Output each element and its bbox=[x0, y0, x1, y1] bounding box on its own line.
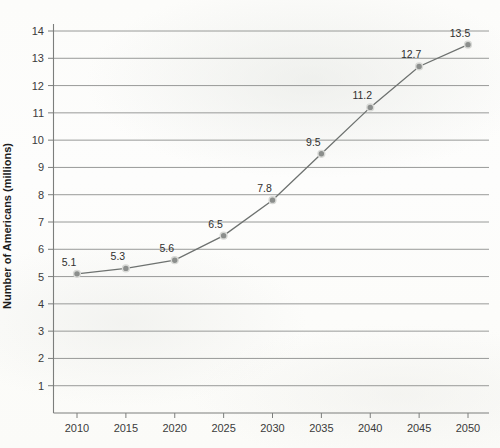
y-tick-label: 14 bbox=[32, 25, 44, 37]
line-chart: 1234567891011121314 20102015202020252030… bbox=[0, 0, 500, 448]
data-point-marker bbox=[74, 270, 81, 277]
y-tick-label: 9 bbox=[38, 161, 44, 173]
data-series-line bbox=[77, 45, 468, 274]
x-tick-label: 2030 bbox=[260, 422, 284, 434]
x-axis-tick-group: 201020152020202520302035204020452050 bbox=[65, 413, 480, 434]
y-tick-label: 2 bbox=[38, 352, 44, 364]
data-point-label: 5.1 bbox=[62, 256, 77, 268]
y-tick-label: 1 bbox=[38, 380, 44, 392]
y-tick-label: 13 bbox=[32, 52, 44, 64]
y-tick-label: 7 bbox=[38, 216, 44, 228]
y-tick-label: 10 bbox=[32, 134, 44, 146]
data-point-marker bbox=[367, 104, 374, 111]
data-point-label: 11.2 bbox=[352, 89, 372, 101]
data-point-label: 7.8 bbox=[257, 182, 272, 194]
data-point-label: 9.5 bbox=[306, 136, 321, 148]
y-tick-label: 12 bbox=[32, 80, 44, 92]
x-tick-label: 2050 bbox=[456, 422, 480, 434]
y-tick-label: 3 bbox=[38, 325, 44, 337]
data-point-label: 12.7 bbox=[401, 48, 422, 60]
y-axis-tick-group: 1234567891011121314 bbox=[32, 25, 54, 392]
chart-page: 1234567891011121314 20102015202020252030… bbox=[0, 0, 500, 448]
y-tick-label: 11 bbox=[33, 107, 44, 119]
data-point-marker bbox=[171, 257, 178, 264]
data-point-marker bbox=[269, 197, 276, 204]
data-point-label-group: 5.15.35.66.57.89.511.212.713.5 bbox=[62, 27, 471, 268]
y-tick-label: 4 bbox=[38, 298, 44, 310]
gridline-group bbox=[54, 31, 490, 386]
y-axis-title: Number of Americans (millions) bbox=[1, 143, 13, 309]
x-tick-label: 2045 bbox=[407, 422, 431, 434]
x-tick-label: 2040 bbox=[358, 422, 382, 434]
y-tick-label: 6 bbox=[38, 243, 44, 255]
data-point-label: 6.5 bbox=[208, 218, 223, 230]
data-point-marker bbox=[416, 63, 423, 70]
data-point-label: 5.6 bbox=[159, 242, 174, 254]
data-point-marker bbox=[220, 232, 227, 239]
data-point-marker-group bbox=[74, 41, 472, 277]
data-point-marker bbox=[318, 150, 325, 157]
data-point-marker bbox=[465, 41, 472, 48]
data-point-marker bbox=[122, 265, 129, 272]
x-tick-label: 2025 bbox=[211, 422, 235, 434]
x-tick-label: 2015 bbox=[114, 422, 138, 434]
data-point-label: 5.3 bbox=[111, 250, 126, 262]
y-tick-label: 5 bbox=[38, 271, 44, 283]
x-tick-label: 2035 bbox=[309, 422, 333, 434]
x-tick-label: 2010 bbox=[65, 422, 89, 434]
data-point-label: 13.5 bbox=[450, 27, 471, 39]
y-tick-label: 8 bbox=[38, 189, 44, 201]
x-tick-label: 2020 bbox=[163, 422, 187, 434]
